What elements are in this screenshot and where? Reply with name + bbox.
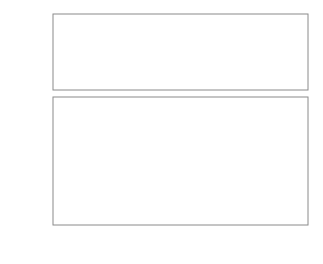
chart-canvas: [0, 0, 323, 264]
figure-root: [0, 0, 323, 264]
figure-background: [0, 0, 323, 264]
